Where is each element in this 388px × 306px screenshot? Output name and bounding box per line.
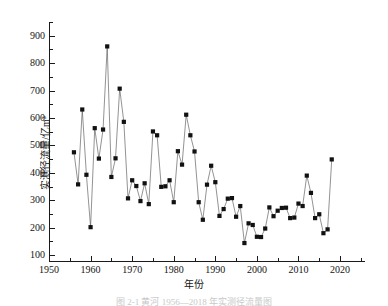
data-point	[205, 183, 209, 187]
data-point	[184, 113, 188, 117]
data-point	[276, 209, 280, 213]
y-tick-label: 800	[30, 58, 45, 68]
data-point	[238, 204, 242, 208]
data-point	[267, 205, 271, 209]
x-tick-label: 1980	[164, 265, 184, 275]
data-point	[325, 227, 329, 231]
y-tick-label: 300	[30, 195, 45, 205]
data-point	[246, 221, 250, 225]
y-tick-label: 200	[30, 223, 45, 233]
data-point	[101, 127, 105, 131]
data-point	[296, 201, 300, 205]
data-point	[201, 218, 205, 222]
data-point	[292, 215, 296, 219]
data-point	[138, 199, 142, 203]
y-tick-label: 500	[30, 140, 45, 150]
x-tick-label: 2000	[247, 265, 267, 275]
data-point	[271, 214, 275, 218]
data-point	[167, 178, 171, 182]
data-point	[151, 129, 155, 133]
data-point	[263, 226, 267, 230]
data-point	[109, 175, 113, 179]
x-tick-label: 1950	[39, 265, 59, 275]
x-axis-title: 年份	[0, 276, 388, 291]
data-point	[301, 204, 305, 208]
data-point	[130, 178, 134, 182]
data-point	[309, 191, 313, 195]
data-point	[213, 180, 217, 184]
data-point	[126, 196, 130, 200]
data-point	[93, 126, 97, 130]
data-point	[222, 207, 226, 211]
chart-page: 实测径流量/亿m³ 100200300400500600700800900 19…	[0, 0, 388, 306]
data-point	[118, 87, 122, 91]
data-point	[176, 149, 180, 153]
data-point	[113, 156, 117, 160]
data-point	[172, 200, 176, 204]
data-point	[217, 214, 221, 218]
x-tick-label: 1990	[205, 265, 225, 275]
data-point	[251, 223, 255, 227]
plot-area: 100200300400500600700800900 195019601970…	[49, 22, 365, 262]
data-point	[330, 157, 334, 161]
y-tick-label: 900	[30, 31, 45, 41]
data-point	[147, 202, 151, 206]
data-point	[259, 235, 263, 239]
data-point	[313, 216, 317, 220]
data-point	[88, 225, 92, 229]
data-point	[72, 150, 76, 154]
y-tick-label: 400	[30, 168, 45, 178]
y-tick-label: 600	[30, 113, 45, 123]
data-point	[84, 173, 88, 177]
data-point	[122, 120, 126, 124]
x-axis-title-text: 年份	[184, 279, 204, 290]
data-point	[80, 107, 84, 111]
data-point	[288, 216, 292, 220]
data-point	[180, 163, 184, 167]
data-point	[143, 181, 147, 185]
data-point	[163, 184, 167, 188]
data-point	[255, 235, 259, 239]
y-tick-label: 100	[30, 250, 45, 260]
figure-caption: 图 2-1 黄河 1956—2018 年实测径流量图	[0, 295, 388, 306]
data-point	[234, 215, 238, 219]
data-point	[155, 133, 159, 137]
x-tick-label: 2010	[288, 265, 308, 275]
data-point	[188, 133, 192, 137]
data-point	[230, 196, 234, 200]
data-point	[305, 174, 309, 178]
data-point	[97, 156, 101, 160]
data-point	[284, 206, 288, 210]
data-point	[192, 149, 196, 153]
data-point	[321, 231, 325, 235]
data-point	[209, 164, 213, 168]
data-point	[226, 197, 230, 201]
data-point	[105, 44, 109, 48]
y-tick-label: 700	[30, 86, 45, 96]
x-tick-label: 2020	[330, 265, 350, 275]
data-point	[242, 241, 246, 245]
data-point	[317, 212, 321, 216]
data-point	[197, 200, 201, 204]
data-point	[134, 184, 138, 188]
runoff-series	[49, 22, 365, 262]
x-tick-label: 1960	[81, 265, 101, 275]
data-point	[76, 182, 80, 186]
series-markers	[72, 44, 334, 245]
data-point	[280, 206, 284, 210]
x-tick-label: 1970	[122, 265, 142, 275]
series-line	[74, 46, 332, 243]
data-point	[159, 185, 163, 189]
